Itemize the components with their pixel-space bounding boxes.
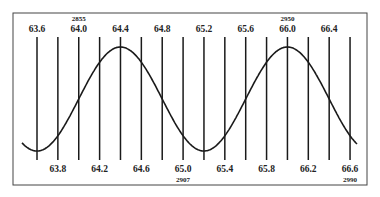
bottom-label: 63.8 xyxy=(50,164,67,174)
annotation-value: 2950 xyxy=(280,15,295,23)
bottom-label: 64.6 xyxy=(133,164,150,174)
top-label: 65.6 xyxy=(237,24,254,34)
bottom-label: 65.0 xyxy=(175,164,192,174)
top-label: 66.4 xyxy=(321,24,338,34)
bottom-label: 66.6 xyxy=(342,164,359,174)
top-label: 65.2 xyxy=(196,24,213,34)
diagram-canvas: 63.664.064.464.865.265.666.066.4 63.864.… xyxy=(0,0,380,197)
top-label: 64.0 xyxy=(70,24,87,34)
bottom-label: 64.2 xyxy=(91,164,108,174)
annotation-value: 2855 xyxy=(72,15,87,23)
annotation-value: 2990 xyxy=(343,176,358,184)
diagram-frame xyxy=(13,13,367,185)
wave-scale-diagram: 63.664.064.464.865.265.666.066.4 63.864.… xyxy=(0,0,380,197)
bottom-label: 66.2 xyxy=(300,164,317,174)
bottom-scale-labels: 63.864.264.665.065.465.866.266.6 xyxy=(50,164,359,174)
top-label: 63.6 xyxy=(29,24,46,34)
wave-curve xyxy=(22,47,357,151)
top-label: 66.0 xyxy=(279,24,296,34)
bottom-label: 65.8 xyxy=(258,164,275,174)
top-label: 64.4 xyxy=(112,24,129,34)
annotation-value: 2907 xyxy=(176,176,191,184)
bottom-label: 65.4 xyxy=(217,164,234,174)
top-scale-labels: 63.664.064.464.865.265.666.066.4 xyxy=(29,24,338,34)
annotations: 2855295029072990 xyxy=(72,15,358,184)
top-label: 64.8 xyxy=(154,24,171,34)
